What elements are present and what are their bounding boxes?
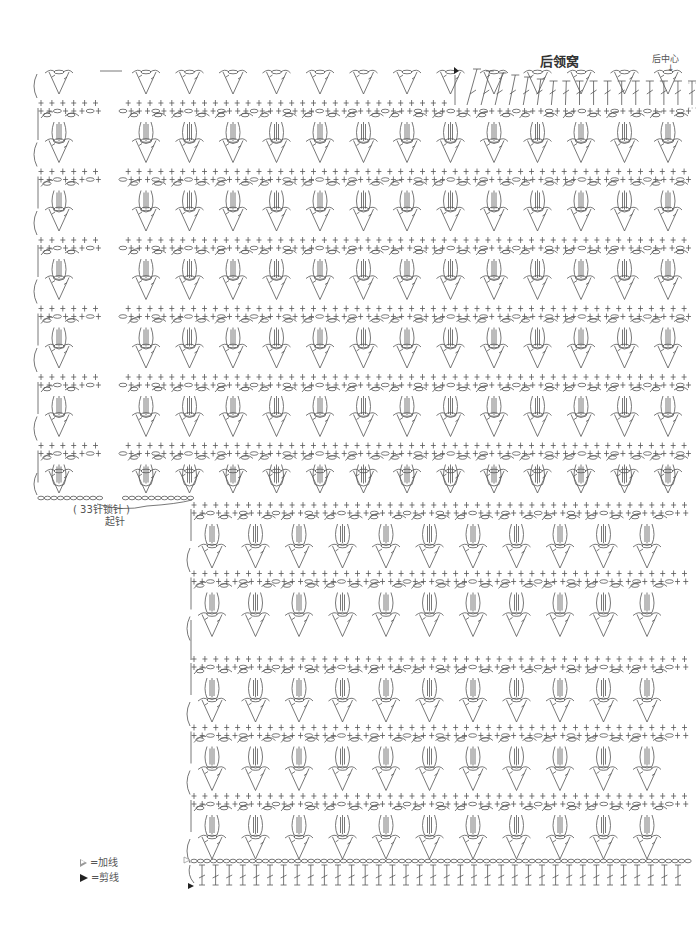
legend-item-join: =加线: [80, 855, 119, 870]
crochet-chart: [0, 0, 696, 931]
cut-yarn-icon: [80, 874, 88, 882]
foundation-label: 起针: [105, 513, 125, 528]
legend-text: =剪线: [91, 870, 119, 885]
legend-text: =加线: [90, 855, 118, 870]
join-yarn-icon: [80, 859, 87, 867]
back-center-label: 后中心: [652, 52, 679, 65]
neckline-title: 后领窝: [540, 51, 579, 70]
legend: =加线 =剪线: [80, 855, 119, 885]
legend-item-cut: =剪线: [80, 870, 119, 885]
back-center-arrow-icon: ↓: [667, 63, 675, 73]
